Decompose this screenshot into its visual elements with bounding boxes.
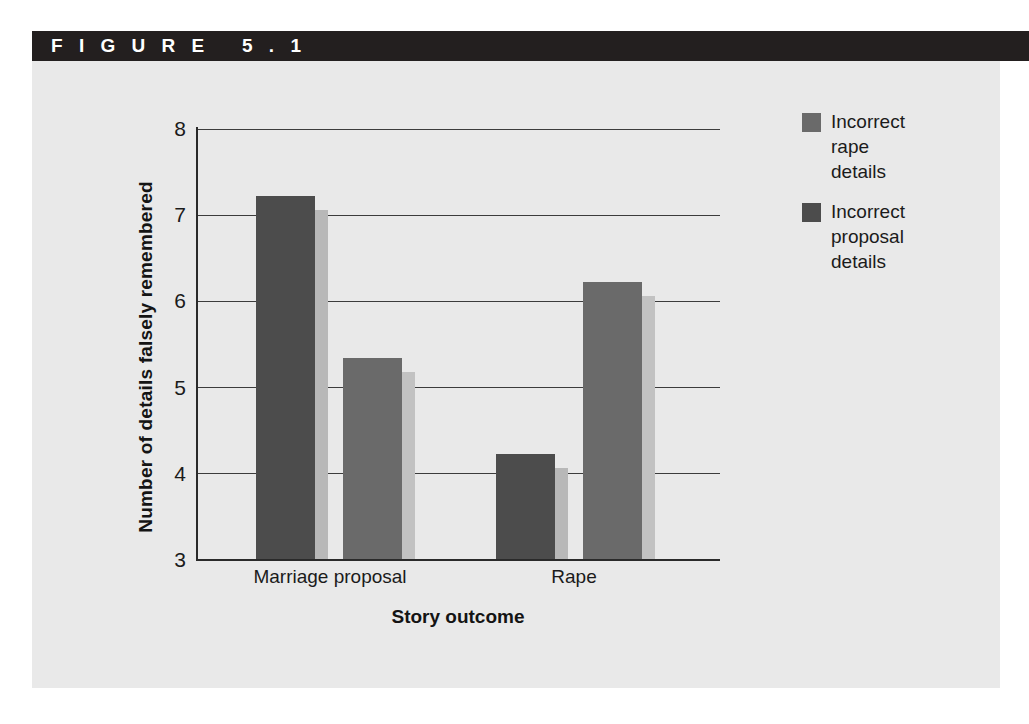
bar-front-4[interactable] (583, 282, 642, 559)
figure-root: F I G U R E 5 . 1 8 7 6 5 4 3 Number of … (0, 0, 1029, 724)
bar-front-3[interactable] (496, 454, 555, 559)
x-axis-title: Story outcome (196, 606, 720, 628)
figure-header-bar: F I G U R E 5 . 1 (32, 31, 1029, 61)
bar-side-3 (555, 468, 568, 559)
xtick-label-marriage-proposal: Marriage proposal (230, 566, 430, 588)
legend-swatch-incorrect-rape-details (802, 113, 821, 132)
xtick-label-rape: Rape (494, 566, 654, 588)
bar-side-4 (642, 296, 655, 559)
figure-panel: 8 7 6 5 4 3 Number of details falsely re… (32, 61, 1000, 688)
legend-label-incorrect-proposal-details: Incorrect proposal details (831, 199, 981, 274)
legend-label-incorrect-rape-details: Incorrect rape details (831, 109, 981, 184)
chart-plot-area: 8 7 6 5 4 3 Number of details falsely re… (32, 61, 1000, 688)
x-axis-line (196, 559, 720, 561)
legend-swatch-incorrect-proposal-details (802, 203, 821, 222)
figure-number-label: F I G U R E 5 . 1 (51, 36, 306, 56)
